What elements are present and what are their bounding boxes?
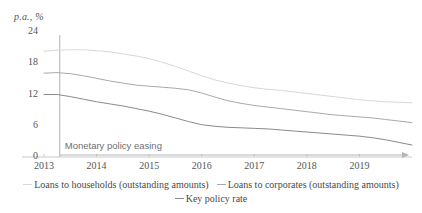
x-axis-tick-2017: 2017 (234, 160, 274, 171)
y-axis-tick-6: 6 (12, 119, 38, 130)
x-axis-tick-2013: 2013 (24, 160, 64, 171)
series-line-0 (44, 50, 412, 103)
legend-item[interactable]: Key policy rate (175, 192, 248, 206)
x-axis-tick-2015: 2015 (129, 160, 169, 171)
y-axis-tick-24: 24 (12, 25, 38, 36)
x-axis-tick-2016: 2016 (182, 160, 222, 171)
legend-swatch-icon (217, 184, 226, 185)
y-axis-unit-label: p.a., % (14, 11, 44, 22)
y-axis-tick-18: 18 (12, 56, 38, 67)
x-axis-tick-2019: 2019 (339, 160, 379, 171)
series-line-1 (44, 73, 412, 123)
x-axis-tick-2014: 2014 (77, 160, 117, 171)
line-chart: p.a., % 06121824 20132014201520162017201… (0, 0, 422, 213)
legend-item[interactable]: Loans to households (outstanding amounts… (23, 178, 208, 192)
chart-legend: Loans to households (outstanding amounts… (0, 178, 422, 206)
legend-row: Loans to households (outstanding amounts… (0, 178, 422, 192)
legend-item-label: Loans to households (outstanding amounts… (34, 179, 208, 190)
legend-swatch-icon (23, 184, 32, 185)
annotation-monetary-policy-easing: Monetary policy easing (65, 140, 162, 151)
legend-swatch-icon (175, 198, 184, 199)
legend-item-label: Key policy rate (186, 193, 248, 204)
y-axis-tick-12: 12 (12, 88, 38, 99)
x-axis-tick-2018: 2018 (287, 160, 327, 171)
legend-row: Key policy rate (0, 192, 422, 206)
legend-item-label: Loans to corporates (outstanding amounts… (228, 179, 399, 190)
series-line-2 (44, 95, 412, 146)
legend-item[interactable]: Loans to corporates (outstanding amounts… (217, 178, 399, 192)
